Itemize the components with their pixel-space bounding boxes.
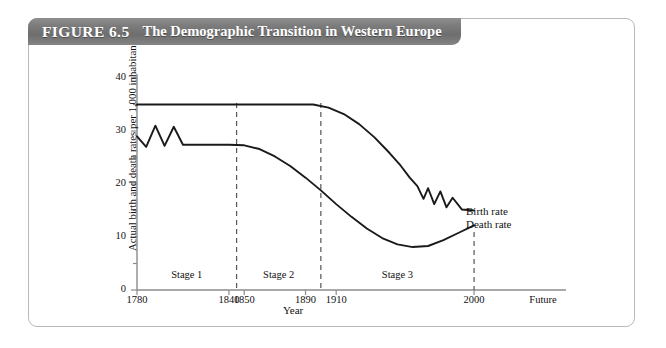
stage-label: Stage 2 xyxy=(239,269,319,280)
x-axis-tick-label: 1780 xyxy=(114,294,160,305)
y-axis-label: Actual birth and death rates per 1,000 i… xyxy=(126,45,138,251)
x-axis-tick-label: 1910 xyxy=(313,294,359,305)
x-axis-tick-label: 1850 xyxy=(221,294,267,305)
y-axis-tick-label: 40 xyxy=(104,71,126,82)
figure-frame xyxy=(28,18,635,327)
y-axis-label-container: Actual birth and death rates per 1,000 i… xyxy=(92,60,110,290)
figure-title: The Demographic Transition in Western Eu… xyxy=(143,23,442,40)
x-axis-tick-label: 2000 xyxy=(451,294,497,305)
y-axis-tick-label: 30 xyxy=(104,124,126,135)
figure-title-banner: FIGURE 6.5 The Demographic Transition in… xyxy=(28,18,461,45)
x-axis-label: Year xyxy=(283,304,303,316)
y-axis-tick-label: 10 xyxy=(104,230,126,241)
series-label-death-rate: Death rate xyxy=(466,218,512,230)
y-axis-tick-label: 20 xyxy=(104,177,126,188)
figure-number: FIGURE 6.5 xyxy=(42,23,130,41)
stage-label: Stage 3 xyxy=(357,269,437,280)
stage-label: Stage 1 xyxy=(147,269,227,280)
x-axis-tick-label: Future xyxy=(520,294,566,305)
y-axis-tick-label: 0 xyxy=(104,283,126,294)
series-label-birth-rate: Birth rate xyxy=(466,205,508,217)
